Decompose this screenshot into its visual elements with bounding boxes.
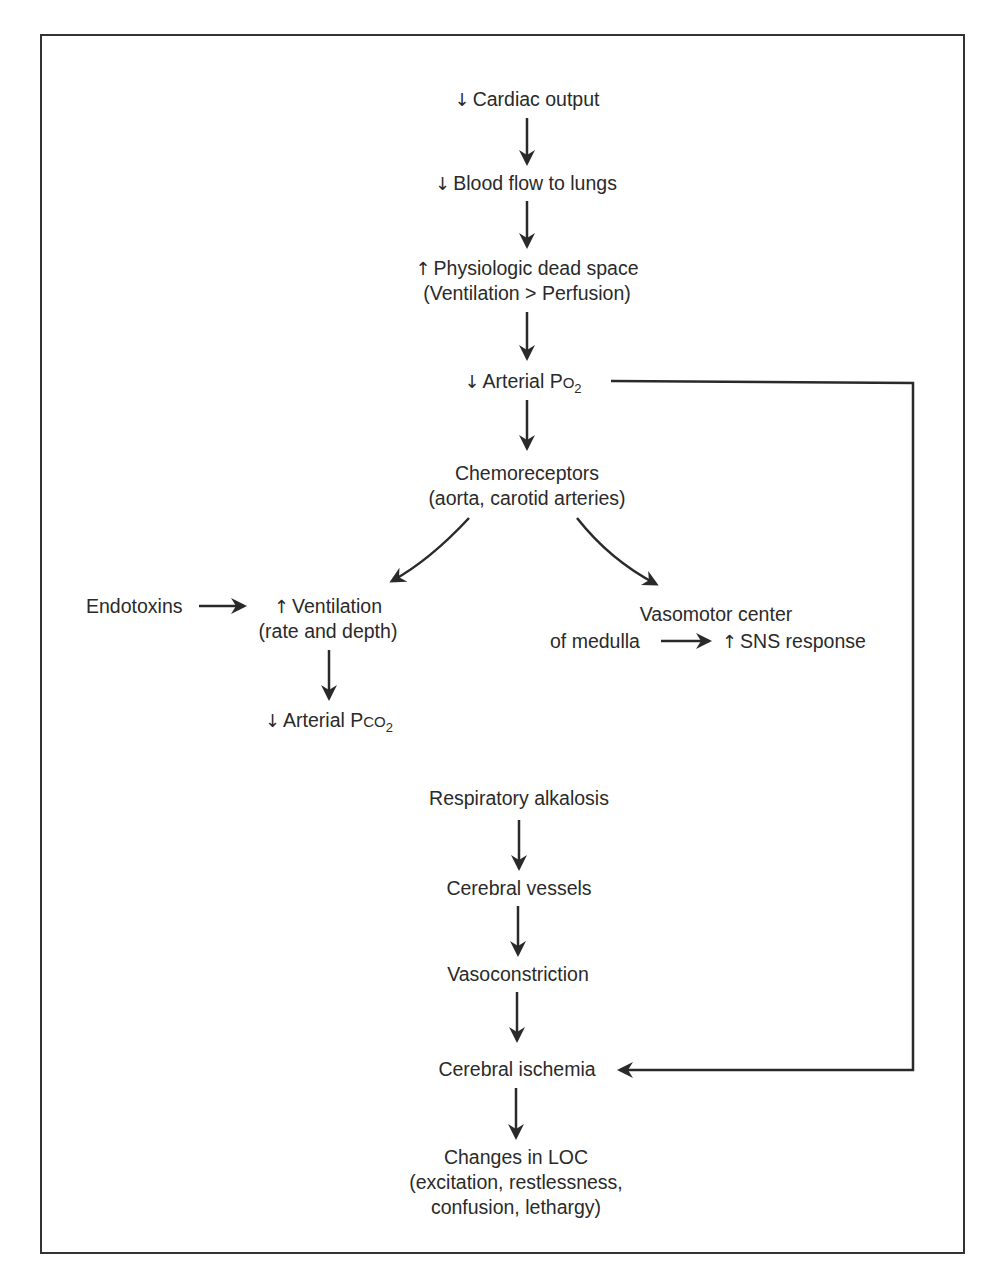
node-sns-response: ↑SNS response — [722, 629, 866, 654]
node-chemoreceptors: Chemoreceptors (aorta, carotid arteries) — [428, 461, 625, 511]
node-changes-in-loc: Changes in LOC (excitation, restlessness… — [409, 1145, 623, 1220]
node-arterial-pco2: ↓Arterial PCO2 — [265, 708, 393, 734]
down-arrow-symbol: ↓ — [435, 173, 450, 194]
up-arrow-symbol: ↑ — [722, 631, 737, 652]
node-respiratory-alkalosis: Respiratory alkalosis — [429, 786, 609, 811]
up-arrow-symbol: ↑ — [416, 258, 431, 279]
node-blood-flow-to-lungs: ↓Blood flow to lungs — [435, 171, 617, 196]
arrow-chemo-to-vasomotor — [577, 518, 656, 584]
node-vasoconstriction: Vasoconstriction — [447, 962, 589, 987]
arrow-chemo-to-ventilation — [392, 518, 469, 581]
down-arrow-symbol: ↓ — [265, 710, 280, 731]
node-physiologic-dead-space: ↑Physiologic dead space (Ventilation > P… — [416, 256, 639, 306]
node-arterial-po2: ↓Arterial PO2 — [464, 369, 581, 395]
up-arrow-symbol: ↑ — [274, 596, 289, 617]
node-ventilation: ↑Ventilation (rate and depth) — [259, 594, 398, 644]
node-cerebral-ischemia: Cerebral ischemia — [438, 1057, 595, 1082]
down-arrow-symbol: ↓ — [464, 371, 479, 392]
arrow-po2-to-ischemia — [611, 381, 913, 1070]
node-vasomotor-center: Vasomotor center — [640, 602, 792, 627]
node-vasomotor-center-line2: of medulla — [550, 629, 640, 654]
node-endotoxins: Endotoxins — [86, 594, 182, 619]
down-arrow-symbol: ↓ — [455, 89, 470, 110]
node-cardiac-output: ↓Cardiac output — [455, 87, 600, 112]
node-cerebral-vessels: Cerebral vessels — [446, 876, 591, 901]
